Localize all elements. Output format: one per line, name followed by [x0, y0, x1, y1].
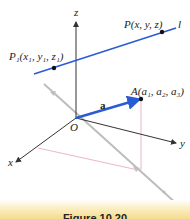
y-axis-label: y: [180, 138, 185, 149]
point-a-label: A(a₁, a₂, a₃): [131, 86, 184, 97]
projection-line: [38, 148, 138, 170]
point-a-dot: [139, 97, 143, 101]
point-p1-dot: [52, 66, 56, 70]
z-axis-label: z: [74, 7, 78, 18]
vector-a-label: a: [100, 100, 106, 111]
figure-caption: Figure 10.20: [0, 212, 190, 219]
figure-caption-bar: Figure 10.20: [0, 200, 190, 219]
x-axis-label: x: [8, 157, 13, 168]
point-p1-label: P₁(x₁, y₁, z₁): [9, 51, 63, 62]
point-p-label: P(x, y, z): [124, 19, 162, 30]
y-axis: [76, 118, 176, 143]
diagram-canvas: [0, 0, 190, 219]
origin-label: O: [70, 122, 78, 133]
x-axis: [16, 118, 76, 162]
parallel-gray-line: [44, 84, 178, 205]
line-l-label: l: [178, 19, 181, 30]
point-p-dot: [160, 30, 164, 34]
vector-a: [76, 100, 137, 118]
